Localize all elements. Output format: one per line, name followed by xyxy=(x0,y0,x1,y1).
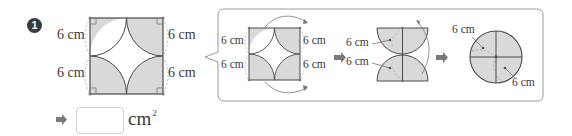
unit-base: cm xyxy=(128,108,151,129)
main-label-left-bottom: 6 cm xyxy=(57,65,85,81)
step1-label-left-top: 6 cm xyxy=(221,34,244,46)
main-label-right-bottom: 6 cm xyxy=(168,65,196,81)
unit-exponent: 2 xyxy=(152,108,157,118)
step2-label-top: 6 cm xyxy=(346,36,369,48)
step1-label-right-top: 6 cm xyxy=(303,34,326,46)
main-square-figure xyxy=(85,17,168,96)
step1-label-right-bottom: 6 cm xyxy=(303,58,326,70)
step3-label-bottom-right: 6 cm xyxy=(512,76,535,88)
step3-label-top-left: 6 cm xyxy=(452,23,475,35)
main-label-right-top: 6 cm xyxy=(168,27,196,43)
step2-label-bottom: 6 cm xyxy=(346,55,369,67)
answer-input-box[interactable] xyxy=(76,107,124,134)
main-label-left-top: 6 cm xyxy=(57,27,85,43)
answer-arrow-icon xyxy=(56,114,67,125)
step1-label-left-bottom: 6 cm xyxy=(221,58,244,70)
answer-unit: cm2 xyxy=(128,108,157,130)
